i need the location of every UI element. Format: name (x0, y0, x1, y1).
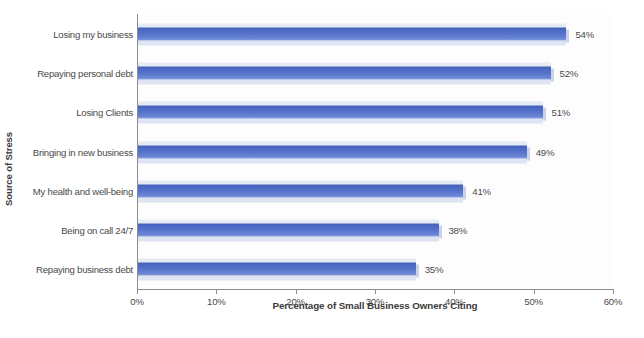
bar-value-label: 51% (552, 107, 571, 118)
y-axis-title: Source of Stress (0, 0, 18, 338)
bar-end-cap (527, 147, 530, 160)
x-axis-tick (137, 289, 138, 294)
x-axis-tick (216, 289, 217, 294)
bar-chart: Source of Stress Losing my businessRepay… (0, 0, 644, 338)
bar-value-label: 52% (560, 67, 579, 78)
bar-shadow (138, 40, 566, 45)
bar-shadow (138, 119, 543, 124)
bar (138, 263, 416, 276)
bar-fill (138, 66, 551, 79)
bar-value-label: 49% (536, 146, 555, 157)
category-label: Losing Clients (18, 107, 133, 118)
bar-fill (138, 184, 463, 197)
bar-fill (138, 224, 439, 237)
x-axis-tick (454, 289, 455, 294)
category-axis-labels: Losing my businessRepaying personal debt… (18, 14, 133, 289)
bar (138, 106, 543, 119)
bar-value-label: 35% (425, 264, 444, 275)
category-label: Being on call 24/7 (18, 225, 133, 236)
bar-shadow (138, 276, 416, 281)
bar-shadow (138, 158, 527, 163)
category-label: Bringing in new business (18, 146, 133, 157)
bar (138, 145, 527, 158)
bar-fill (138, 27, 566, 40)
bar-end-cap (439, 226, 442, 239)
x-axis-tick (613, 289, 614, 294)
category-label: Repaying personal debt (18, 67, 133, 78)
x-axis-tick (296, 289, 297, 294)
bar-fill (138, 263, 416, 276)
category-label: My health and well-being (18, 185, 133, 196)
bar-shadow (138, 237, 439, 242)
category-label: Repaying business debt (18, 264, 133, 275)
category-label: Losing my business (18, 28, 133, 39)
bar-shadow (138, 197, 463, 202)
bar-fill (138, 106, 543, 119)
bar-end-cap (416, 265, 419, 278)
bar-value-label: 41% (472, 185, 491, 196)
bar (138, 66, 551, 79)
bar-end-cap (463, 186, 466, 199)
x-axis-tick (375, 289, 376, 294)
bar-end-cap (551, 68, 554, 81)
bar-fill (138, 145, 527, 158)
bar-end-cap (543, 108, 546, 121)
bar-shadow (138, 79, 551, 84)
bar-end-cap (566, 29, 569, 42)
bar-value-label: 38% (448, 225, 467, 236)
bar (138, 184, 463, 197)
x-axis-tick (534, 289, 535, 294)
bar (138, 224, 439, 237)
bar-value-label: 54% (575, 28, 594, 39)
x-axis-title: Percentage of Small Business Owners Citi… (137, 300, 613, 311)
bar (138, 27, 566, 40)
plot-area: 54%52%51%49%41%38%35%0%10%20%30%40%50%60… (137, 14, 613, 289)
